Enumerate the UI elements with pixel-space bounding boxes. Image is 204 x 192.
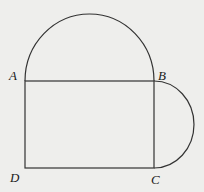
- label-d: D: [10, 170, 19, 186]
- right-semicircle: [154, 81, 194, 168]
- rectangle-abcd: [25, 81, 154, 168]
- top-semicircle: [25, 14, 154, 81]
- geometry-figure: [0, 0, 204, 192]
- label-a: A: [9, 68, 17, 84]
- label-c: C: [151, 172, 160, 188]
- label-b: B: [158, 68, 166, 84]
